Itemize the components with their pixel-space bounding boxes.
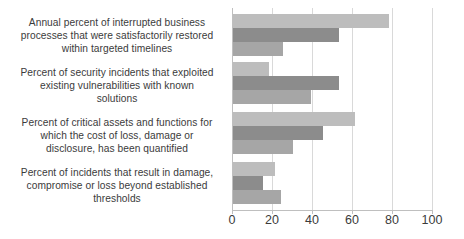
gridline: [432, 8, 433, 210]
category-label-line: Percent of incidents that result in dama…: [8, 166, 226, 179]
x-axis-tick-label: 20: [252, 212, 292, 228]
category-label-line: compromise or loss beyond established: [8, 179, 226, 192]
bar: [233, 112, 355, 126]
bar: [233, 14, 389, 28]
category-label: Percent of incidents that result in dama…: [8, 166, 226, 206]
x-axis-line: [232, 210, 432, 211]
category-label: Annual percent of interrupted businesspr…: [8, 16, 226, 56]
x-axis-tick-label: 100: [412, 212, 452, 228]
bar: [233, 28, 339, 42]
x-axis-tick-labels: 020406080100: [232, 212, 432, 232]
bar: [233, 42, 283, 56]
bar: [233, 162, 275, 176]
x-axis-tick-label: 80: [372, 212, 412, 228]
bar-chart: Annual percent of interrupted businesspr…: [0, 0, 464, 239]
bar: [233, 140, 293, 154]
category-label-line: Annual percent of interrupted business: [8, 16, 226, 29]
category-label: Percent of critical assets and functions…: [8, 116, 226, 156]
bar: [233, 190, 281, 204]
category-label: Percent of security incidents that explo…: [8, 66, 226, 106]
x-axis-tick-label: 0: [212, 212, 252, 228]
bar: [233, 76, 339, 90]
x-axis-tick-label: 60: [332, 212, 372, 228]
bar: [233, 90, 311, 104]
category-label-column: Annual percent of interrupted businesspr…: [0, 0, 228, 239]
category-label-line: processes that were satisfactorily resto…: [8, 29, 226, 42]
category-label-line: solutions: [8, 92, 226, 105]
gridline: [392, 8, 393, 210]
bar: [233, 62, 269, 76]
category-label-line: existing vulnerabilities with known: [8, 79, 226, 92]
x-axis-tick-label: 40: [292, 212, 332, 228]
plot-area: [232, 8, 432, 210]
category-label-line: which the cost of loss, damage or: [8, 129, 226, 142]
category-label-line: Percent of security incidents that explo…: [8, 66, 226, 79]
category-label-line: within targeted timelines: [8, 42, 226, 55]
bar: [233, 176, 263, 190]
bar: [233, 126, 323, 140]
category-label-line: thresholds: [8, 192, 226, 205]
gridline: [352, 8, 353, 210]
category-label-line: Percent of critical assets and functions…: [8, 116, 226, 129]
category-label-line: disclosure, has been quantified: [8, 142, 226, 155]
